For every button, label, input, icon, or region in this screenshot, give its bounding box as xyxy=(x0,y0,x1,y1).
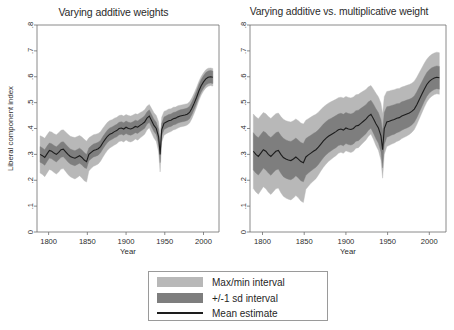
svg-text:1900: 1900 xyxy=(337,237,354,246)
legend-item-maxmin: Max/min interval xyxy=(149,274,327,290)
legend-swatch-sd xyxy=(157,293,203,303)
svg-text:1950: 1950 xyxy=(379,237,396,246)
plot-area-right: 0.1.2.3.4.5.6.7.818001850190019502000Yea… xyxy=(224,0,454,262)
legend-label-sd: +/-1 sd interval xyxy=(212,293,278,304)
svg-text:1950: 1950 xyxy=(156,237,173,246)
svg-text:1800: 1800 xyxy=(254,237,271,246)
svg-text:.1: .1 xyxy=(239,203,248,209)
svg-text:Liberal component index: Liberal component index xyxy=(6,86,15,171)
svg-text:.8: .8 xyxy=(26,22,35,28)
svg-text:.5: .5 xyxy=(239,99,248,105)
svg-text:Year: Year xyxy=(120,247,136,256)
svg-text:.6: .6 xyxy=(26,74,35,80)
legend-line-stroke xyxy=(157,312,203,313)
legend-label-maxmin: Max/min interval xyxy=(212,277,285,288)
legend-label-mean: Mean estimate xyxy=(212,308,278,319)
svg-text:0: 0 xyxy=(239,230,248,234)
legend-item-sd: +/-1 sd interval xyxy=(149,290,327,306)
svg-text:.7: .7 xyxy=(26,48,35,54)
svg-text:.7: .7 xyxy=(239,48,248,54)
svg-text:.1: .1 xyxy=(26,203,35,209)
legend-line-mean xyxy=(157,308,203,318)
panel-row: Varying additive weights 0.1.2.3.4.5.6.7… xyxy=(0,0,454,262)
svg-text:2000: 2000 xyxy=(421,237,438,246)
svg-text:1850: 1850 xyxy=(79,237,96,246)
svg-text:.4: .4 xyxy=(239,125,248,131)
svg-text:Year: Year xyxy=(340,247,356,256)
legend-swatch-maxmin xyxy=(157,277,203,287)
chart-panel-right: Varying additive vs. multiplicative weig… xyxy=(224,0,454,262)
legend-item-mean: Mean estimate xyxy=(149,305,327,321)
plot-area-left: 0.1.2.3.4.5.6.7.818001850190019502000Yea… xyxy=(0,0,227,262)
svg-text:1800: 1800 xyxy=(40,237,57,246)
svg-text:.3: .3 xyxy=(26,151,35,157)
svg-text:1900: 1900 xyxy=(118,237,135,246)
svg-text:.5: .5 xyxy=(26,99,35,105)
svg-text:.2: .2 xyxy=(26,177,35,183)
chart-panel-left: Varying additive weights 0.1.2.3.4.5.6.7… xyxy=(0,0,227,262)
svg-text:.2: .2 xyxy=(239,177,248,183)
svg-text:.6: .6 xyxy=(239,74,248,80)
svg-text:0: 0 xyxy=(26,230,35,234)
chart-legend: Max/min interval +/-1 sd interval Mean e… xyxy=(148,271,328,321)
svg-text:.8: .8 xyxy=(239,22,248,28)
svg-text:1850: 1850 xyxy=(296,237,313,246)
svg-text:.3: .3 xyxy=(239,151,248,157)
figure-container: Varying additive weights 0.1.2.3.4.5.6.7… xyxy=(0,0,454,330)
svg-text:2000: 2000 xyxy=(195,237,212,246)
svg-text:.4: .4 xyxy=(26,125,35,131)
